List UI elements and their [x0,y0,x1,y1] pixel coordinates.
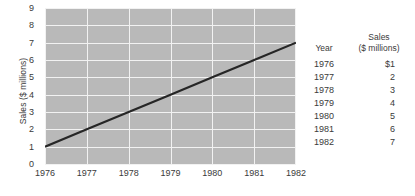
table-cell-year: 1980 [303,110,345,123]
table-header-sales: Sales [349,32,409,42]
table-cell-year: 1978 [303,84,345,97]
table-cell-year: 1979 [303,97,345,110]
y-tick-label: 0 [6,160,34,169]
y-tick-label: 4 [6,91,34,100]
table-row: 1976$1 [303,58,409,71]
table-row: 19794 [303,97,409,110]
table-row: 19816 [303,123,409,136]
table-cell-sales: 4 [349,97,395,110]
table-header-sales-units: ($ millions) [349,43,409,53]
y-tick-label: 1 [6,143,34,152]
sales-line-chart-figure: Sales ($ millions) 0123456789 1976197719… [0,0,415,196]
table-cell-sales: 6 [349,123,395,136]
x-tick-label: 1980 [190,169,234,178]
table-cell-sales: 7 [349,136,395,149]
table-row: 19783 [303,84,409,97]
table-cell-sales: 5 [349,110,395,123]
table-cell-sales: $1 [349,58,395,71]
table-cell-sales: 2 [349,71,395,84]
table-body: 1976$1197721978319794198051981619827 [303,58,409,149]
y-tick-label: 2 [6,125,34,134]
x-tick-label: 1978 [107,169,151,178]
table-header-year: Year [303,43,345,53]
sales-data-table: Year Sales ($ millions) 1976$11977219783… [303,28,409,149]
x-tick-label: 1977 [65,169,109,178]
gridline-horizontal [45,164,296,165]
table-cell-year: 1976 [303,58,345,71]
y-tick-label: 6 [6,56,34,65]
table-row: 19827 [303,136,409,149]
table-row: 19805 [303,110,409,123]
table-cell-sales: 3 [349,84,395,97]
x-tick-label: 1976 [23,169,67,178]
data-series-line [45,8,296,164]
y-tick-label: 5 [6,73,34,82]
plot-area [45,8,296,164]
x-tick-label: 1981 [232,169,276,178]
x-tick-label: 1982 [274,169,318,178]
table-cell-year: 1982 [303,136,345,149]
x-tick-label: 1979 [149,169,193,178]
y-tick-label: 3 [6,108,34,117]
table-cell-year: 1977 [303,71,345,84]
table-cell-year: 1981 [303,123,345,136]
y-tick-label: 7 [6,39,34,48]
y-tick-label: 9 [6,4,34,13]
table-header-row: Year Sales ($ millions) [303,28,409,58]
y-tick-label: 8 [6,21,34,30]
table-row: 19772 [303,71,409,84]
